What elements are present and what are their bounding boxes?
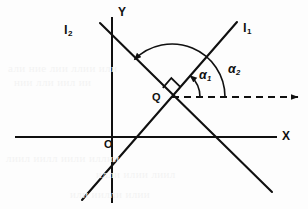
intersection-point-label: Q	[152, 92, 161, 103]
angle-label-alpha2: α2	[228, 63, 240, 76]
angle-label-alpha1-subscript: 1	[207, 74, 212, 83]
origin-label: O	[104, 139, 113, 150]
angle-label-alpha2-subscript: 2	[236, 68, 241, 77]
line-l1	[82, 22, 237, 200]
line-label-l2-subscript: 2	[68, 29, 73, 38]
figure-canvas	[0, 0, 308, 209]
geometry-figure: али ние лии ллии илинии лли иил иилиил и…	[0, 0, 308, 209]
line-l2	[100, 23, 272, 192]
angle-label-alpha1-base: α	[199, 68, 207, 82]
y-axis-label: Y	[118, 6, 126, 18]
line-label-l1-subscript: 1	[247, 27, 252, 36]
line-label-l1: l1	[243, 21, 251, 34]
x-axis-label: X	[282, 130, 290, 142]
angle-label-alpha1: α1	[199, 69, 211, 82]
angle-label-alpha2-base: α	[228, 62, 236, 76]
line-label-l2: l2	[64, 23, 72, 36]
